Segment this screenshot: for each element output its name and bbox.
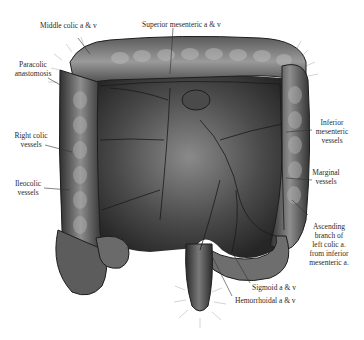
label-line: Right colic [12,131,50,140]
label-line: mesenteric a. [304,258,354,267]
label-inferior-mesenteric-vessels: Inferior mesenteric vessels [312,118,352,145]
label-line: vessels [12,140,50,149]
label-paracolic-anastomosis: Paracolic anastomosis [14,60,52,78]
label-superior-mesenteric: Superior mesenteric a & v [142,20,221,29]
label-sigmoid: Sigmoid a & v [252,283,296,292]
label-marginal-vessels: Marginal vessels [306,168,346,186]
duodenum [182,90,210,110]
label-line: anastomosis [14,69,52,78]
label-line: left colic a. [304,240,354,249]
label-line: from inferior [304,249,354,258]
label-line: branch of [304,231,354,240]
label-line: Ileocolic [10,179,46,188]
label-line: Inferior [312,118,352,127]
label-right-colic-vessels: Right colic vessels [12,131,50,149]
label-line: mesenteric [312,127,352,136]
label-line: Ascending [304,222,354,231]
label-line: Marginal [306,168,346,177]
label-line: vessels [312,136,352,145]
label-hemorrhoidal: Hemorrhoidal a & v [235,296,296,305]
label-line: vessels [306,177,346,186]
label-ascending-branch-left-colic: Ascending branch of left colic a. from i… [304,222,354,267]
label-line: vessels [10,188,46,197]
label-ileocolic-vessels: Ileocolic vessels [10,179,46,197]
label-middle-colic: Middle colic a & v [40,21,97,30]
label-line: Paracolic [14,60,52,69]
rectum [186,244,213,311]
